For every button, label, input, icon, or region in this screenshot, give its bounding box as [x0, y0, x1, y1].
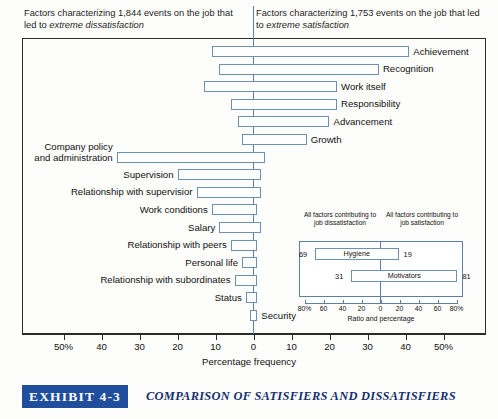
- inset-bar-motivators: Motivators: [351, 270, 457, 282]
- inset-value-right: 19: [404, 250, 412, 259]
- inset-header-left: All factors contributing to job dissatis…: [300, 211, 380, 227]
- inset-axis-title: Ratio and percentage: [299, 315, 463, 322]
- inset-tick: [419, 300, 420, 304]
- bar-label: Salary: [188, 222, 215, 233]
- inset-value-left: 31: [335, 272, 343, 281]
- inset-tick: [381, 300, 382, 304]
- inset-value-right: 81: [462, 272, 470, 281]
- x-tick: [292, 334, 293, 340]
- inset-tick-label: 80%: [450, 305, 464, 312]
- x-tick-label: 20: [324, 341, 335, 352]
- x-axis-title: Percentage frequency: [0, 356, 498, 367]
- bar-salary: [219, 222, 261, 233]
- inset-tick: [400, 300, 401, 304]
- bar-security: [250, 310, 258, 321]
- bar-label: Recognition: [383, 63, 434, 74]
- x-tick-label: 40: [400, 341, 411, 352]
- bar-label: Advancement: [334, 116, 393, 127]
- bar-label: Relationship with supervisior: [71, 186, 193, 197]
- inset-tick: [305, 300, 306, 304]
- bar-status: [246, 292, 257, 303]
- x-tick: [330, 334, 331, 340]
- x-tick: [406, 334, 407, 340]
- bar-label: Achievement: [413, 46, 468, 57]
- bar-work-itself: [204, 81, 337, 92]
- inset-value-left: 69: [299, 250, 307, 259]
- x-tick: [444, 334, 445, 340]
- bar-label: Work conditions: [140, 204, 208, 215]
- x-tick: [102, 334, 103, 340]
- x-tick: [254, 334, 255, 340]
- x-tick-label: 40: [96, 341, 107, 352]
- bar-label: Personal life: [185, 257, 238, 268]
- inset-tick-label: 60: [320, 305, 328, 312]
- bar-label: Relationship with peers: [128, 239, 227, 250]
- inset-tick-label: 60: [434, 305, 442, 312]
- bar-label: Relationship with subordinates: [100, 274, 230, 285]
- exhibit-figure: Factors characterizing 1,844 events on t…: [0, 0, 498, 419]
- inset-tick-label: 20: [358, 305, 366, 312]
- x-tick-label: 0: [251, 341, 256, 352]
- bar-label: Responsibility: [341, 98, 400, 109]
- bar-label: Company policyand administration: [34, 141, 112, 163]
- bar-relationship-with-peers: [231, 240, 258, 251]
- inset-tick-label: 40: [339, 305, 347, 312]
- x-tick: [216, 334, 217, 340]
- inset-tick: [324, 300, 325, 304]
- bar-label: Supervision: [123, 169, 173, 180]
- bar-label: Growth: [311, 134, 342, 145]
- bar-label: Work itself: [341, 81, 386, 92]
- bar-responsibility: [231, 99, 337, 110]
- bar-supervision: [178, 169, 262, 180]
- x-tick: [178, 334, 179, 340]
- x-tick: [368, 334, 369, 340]
- inset-tick-label: 40: [415, 305, 423, 312]
- x-tick-label: 30: [134, 341, 145, 352]
- bar-recognition: [219, 64, 379, 75]
- x-tick-label: 10: [210, 341, 221, 352]
- bar-achievement: [212, 46, 410, 57]
- bar-relationship-with-subordinates: [235, 275, 258, 286]
- header-left-emphasis: extreme dissatisfaction: [49, 20, 144, 30]
- header-left-caption: Factors characterizing 1,844 events on t…: [24, 8, 246, 31]
- inset-tick-label: 80%: [298, 305, 312, 312]
- inset-tick-label: 0: [379, 305, 383, 312]
- x-tick-label: 20: [172, 341, 183, 352]
- inset-tick: [457, 300, 458, 304]
- x-tick-label: 50%: [54, 341, 73, 352]
- bar-company-policy-and-administration: [117, 152, 265, 163]
- bar-relationship-with-supervisior: [197, 187, 262, 198]
- inset-tick: [438, 300, 439, 304]
- bar-advancement: [238, 116, 329, 127]
- x-tick-label: 30: [362, 341, 373, 352]
- bar-label: Status: [215, 292, 242, 303]
- inset-tick-label: 20: [396, 305, 404, 312]
- header-right-emphasis: extreme satisfaction: [266, 20, 349, 30]
- exhibit-badge: EXHIBIT 4-3: [22, 385, 128, 408]
- x-tick-label: 50%: [434, 341, 453, 352]
- bar-label: Security: [261, 310, 296, 321]
- inset-header-right: All factors contributing to job satisfac…: [382, 211, 462, 227]
- bar-personal-life: [242, 257, 257, 268]
- inset-bar-hygiene: Hygiene: [315, 248, 399, 260]
- header-right-caption: Factors characterizing 1,753 events on t…: [256, 8, 486, 31]
- x-tick: [140, 334, 141, 340]
- inset-tick: [343, 300, 344, 304]
- bar-work-conditions: [212, 204, 258, 215]
- bar-growth: [242, 134, 307, 145]
- x-tick: [64, 334, 65, 340]
- x-tick-label: 10: [286, 341, 297, 352]
- exhibit-caption: COMPARISON OF SATISFIERS AND DISSATISFIE…: [146, 389, 456, 404]
- inset-tick: [362, 300, 363, 304]
